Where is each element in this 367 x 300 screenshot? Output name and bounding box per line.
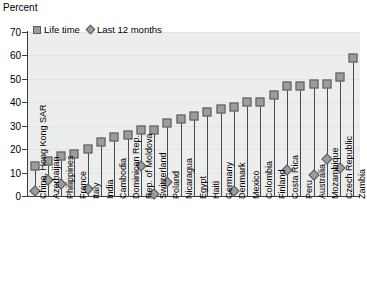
y-axis-tick	[22, 32, 27, 33]
y-axis-tick-labels: 010203040506070	[0, 0, 21, 300]
marker-life-time[interactable]	[203, 107, 212, 116]
marker-life-time[interactable]	[309, 79, 318, 88]
legend-diamond-icon	[85, 25, 95, 35]
marker-life-time[interactable]	[282, 81, 291, 90]
x-axis-label: Philippines	[65, 155, 75, 199]
x-axis-label: Switzerland	[158, 152, 168, 199]
legend-item-1[interactable]: Life time	[33, 24, 80, 35]
x-axis-label: Australia	[317, 164, 327, 199]
data-stem	[101, 142, 102, 196]
x-axis-label: Finland	[277, 169, 287, 199]
x-axis-label: India	[105, 179, 115, 199]
x-axis-label: Colombia	[264, 161, 274, 199]
marker-life-time[interactable]	[269, 91, 278, 100]
gridline	[28, 55, 360, 56]
y-axis-tick-label: 60	[10, 50, 21, 61]
x-axis-label: France	[78, 171, 88, 199]
x-axis-label: Denmark	[237, 162, 247, 199]
legend-label: Last 12 months	[97, 24, 162, 35]
data-stem	[300, 86, 301, 196]
y-axis-tick-label: 20	[10, 144, 21, 155]
x-axis-label: Cambodia	[118, 158, 128, 199]
y-axis-tick-label: 40	[10, 97, 21, 108]
y-axis-tick	[22, 196, 27, 197]
marker-life-time[interactable]	[229, 102, 238, 111]
y-axis-tick-label: 30	[10, 120, 21, 131]
data-stem	[247, 102, 248, 196]
marker-life-time[interactable]	[110, 133, 119, 142]
x-axis-label: Azerbaijan	[51, 156, 61, 199]
marker-life-time[interactable]	[256, 98, 265, 107]
legend-label: Life time	[44, 24, 80, 35]
y-axis-tick	[22, 55, 27, 56]
x-axis-label: Czech Republic	[344, 136, 354, 199]
x-axis-label: Nicaragua	[184, 158, 194, 199]
x-axis-label: Rep. of Moldova	[144, 133, 154, 199]
marker-life-time[interactable]	[296, 81, 305, 90]
y-axis-tick	[22, 126, 27, 127]
gridline	[28, 102, 360, 103]
x-axis-label: Germany	[224, 162, 234, 199]
y-axis-line	[27, 31, 28, 197]
x-axis-label: Poland	[171, 171, 181, 199]
marker-life-time[interactable]	[97, 138, 106, 147]
y-axis-tick-label: 70	[10, 27, 21, 38]
data-stem	[154, 130, 155, 196]
data-stem	[194, 116, 195, 196]
y-axis-tick	[22, 102, 27, 103]
x-axis-label: Mexico	[251, 170, 261, 199]
x-axis-label: Egypt	[198, 176, 208, 199]
x-axis-label: Zambia	[357, 169, 367, 199]
legend-item-2[interactable]: Last 12 months	[87, 24, 162, 35]
data-stem	[287, 86, 288, 196]
marker-life-time[interactable]	[349, 53, 358, 62]
x-axis-label: Haiti	[211, 181, 221, 199]
y-axis-tick	[22, 173, 27, 174]
y-axis-tick	[22, 149, 27, 150]
marker-life-time[interactable]	[216, 105, 225, 114]
x-axis-label: Mozambique	[330, 147, 340, 199]
x-axis-label: Dominican Rep.	[131, 135, 141, 199]
legend-square-icon	[33, 26, 41, 34]
y-axis-tick	[22, 79, 27, 80]
x-axis-label: China, Hong Kong SAR	[38, 104, 48, 199]
marker-life-time[interactable]	[83, 145, 92, 154]
y-axis-tick-label: 50	[10, 73, 21, 84]
y-axis-tick-label: 0	[15, 191, 21, 202]
marker-life-time[interactable]	[322, 79, 331, 88]
marker-life-time[interactable]	[190, 112, 199, 121]
y-axis-tick-label: 10	[10, 167, 21, 178]
x-axis-label: Italy	[91, 182, 101, 199]
data-stem	[61, 156, 62, 196]
marker-life-time[interactable]	[243, 98, 252, 107]
marker-life-time[interactable]	[336, 72, 345, 81]
chart-legend: Life timeLast 12 months	[33, 24, 162, 35]
marker-life-time[interactable]	[163, 119, 172, 128]
x-axis-label: Peru	[304, 180, 314, 199]
data-stem	[340, 77, 341, 196]
marker-life-time[interactable]	[176, 114, 185, 123]
x-axis-label: Costa Rica	[290, 155, 300, 199]
